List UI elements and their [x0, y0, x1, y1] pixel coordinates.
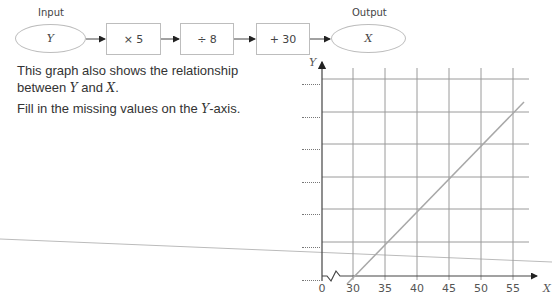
x-tick-40: 40: [405, 282, 429, 295]
y-blank-7[interactable]: [302, 280, 320, 281]
x-tick-30: 30: [341, 282, 365, 295]
x-tick-35: 35: [373, 282, 397, 295]
graph-canvas: [0, 0, 552, 298]
y-blank-6[interactable]: [302, 247, 320, 248]
y-blank-1[interactable]: [302, 84, 320, 85]
x-tick-50: 50: [469, 282, 493, 295]
y-blank-2[interactable]: [302, 117, 320, 118]
grid: [322, 68, 529, 280]
x-axis-label: X: [543, 282, 551, 295]
x-tick-45: 45: [437, 282, 461, 295]
y-blank-4[interactable]: [302, 182, 320, 183]
y-blank-3[interactable]: [302, 149, 320, 150]
x-tick-55: 55: [501, 282, 525, 295]
x-tick-0: 0: [310, 282, 334, 295]
y-axis-label: Y: [309, 56, 316, 69]
y-blank-5[interactable]: [302, 214, 320, 215]
